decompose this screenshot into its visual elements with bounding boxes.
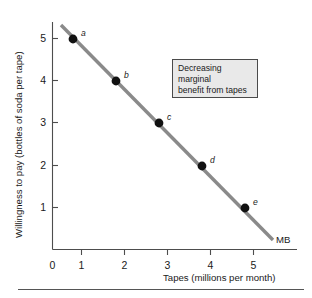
data-point-c	[155, 119, 164, 128]
x-tick-label-3: 3	[165, 259, 171, 271]
x-tick-label-2: 2	[122, 259, 128, 271]
data-point-b	[112, 77, 121, 86]
data-point-label-c: c	[167, 112, 172, 122]
y-axis-title: Willingness to pay (bottles of soda per …	[13, 51, 24, 238]
data-point-label-a: a	[81, 28, 86, 38]
note-line-3: benefit from tapes	[178, 85, 254, 96]
data-point-label-b: b	[124, 70, 129, 80]
y-tick-label-5: 5	[40, 32, 46, 44]
x-tick-label-4: 4	[208, 259, 214, 271]
decreasing-marginal-benefit-note: Decreasing marginal benefit from tapes	[172, 59, 258, 98]
marginal-benefit-chart-figure: 5 4 3 2 1 0 1 2 3 4 5 Tapes (millions pe…	[0, 0, 312, 298]
note-line-2: marginal	[178, 74, 254, 85]
y-tick-label-1: 1	[40, 201, 46, 213]
data-point-label-e: e	[253, 197, 258, 207]
note-text: Decreasing marginal benefit from tapes	[178, 63, 254, 96]
y-tick-label-4: 4	[40, 74, 46, 86]
data-point-a	[69, 35, 78, 44]
y-tick-label-2: 2	[40, 159, 46, 171]
data-point-d	[198, 162, 207, 171]
x-tick-label-0: 0	[50, 259, 56, 271]
x-tick-label-1: 1	[79, 259, 85, 271]
y-tick-label-3: 3	[40, 116, 46, 128]
bottom-divider	[18, 289, 304, 290]
series-label-mb: MB	[276, 234, 290, 245]
x-tick-label-5: 5	[251, 259, 257, 271]
data-point-label-d: d	[210, 155, 215, 165]
x-axis-title: Tapes (millions per month)	[163, 272, 276, 283]
chart-plot-area: 5 4 3 2 1 0 1 2 3 4 5 Tapes (millions pe…	[0, 0, 312, 298]
data-point-e	[241, 204, 250, 213]
note-line-1: Decreasing	[178, 63, 254, 74]
